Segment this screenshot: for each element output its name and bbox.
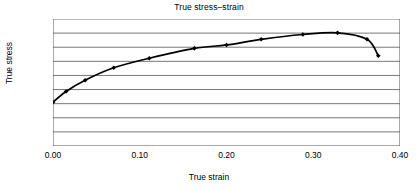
data-point bbox=[111, 66, 116, 71]
x-tick-label: 0.30 bbox=[293, 150, 333, 160]
axis-lines bbox=[53, 19, 400, 146]
x-tick-label: 0.40 bbox=[380, 150, 418, 160]
plot-area: 050100150200250300350400450 0.000.100.20… bbox=[53, 19, 400, 146]
data-point bbox=[147, 56, 152, 61]
x-tick-label: 0.10 bbox=[120, 150, 160, 160]
data-point bbox=[192, 46, 197, 51]
data-point bbox=[224, 43, 229, 48]
x-axis-label: True strain bbox=[0, 172, 418, 182]
data-point bbox=[335, 31, 340, 36]
x-tick-label: 0.20 bbox=[207, 150, 247, 160]
x-tick-label: 0.00 bbox=[33, 150, 73, 160]
data-series-line bbox=[53, 33, 378, 103]
data-point bbox=[259, 37, 264, 42]
y-axis-label: True stress bbox=[4, 28, 14, 98]
data-point-markers bbox=[53, 31, 381, 105]
gridlines bbox=[53, 19, 400, 146]
true-stress-strain-chart: True stress–strain True stress True stra… bbox=[0, 0, 418, 190]
plot-svg bbox=[53, 19, 400, 146]
chart-title: True stress–strain bbox=[0, 2, 418, 12]
axis-ticks bbox=[53, 19, 400, 146]
